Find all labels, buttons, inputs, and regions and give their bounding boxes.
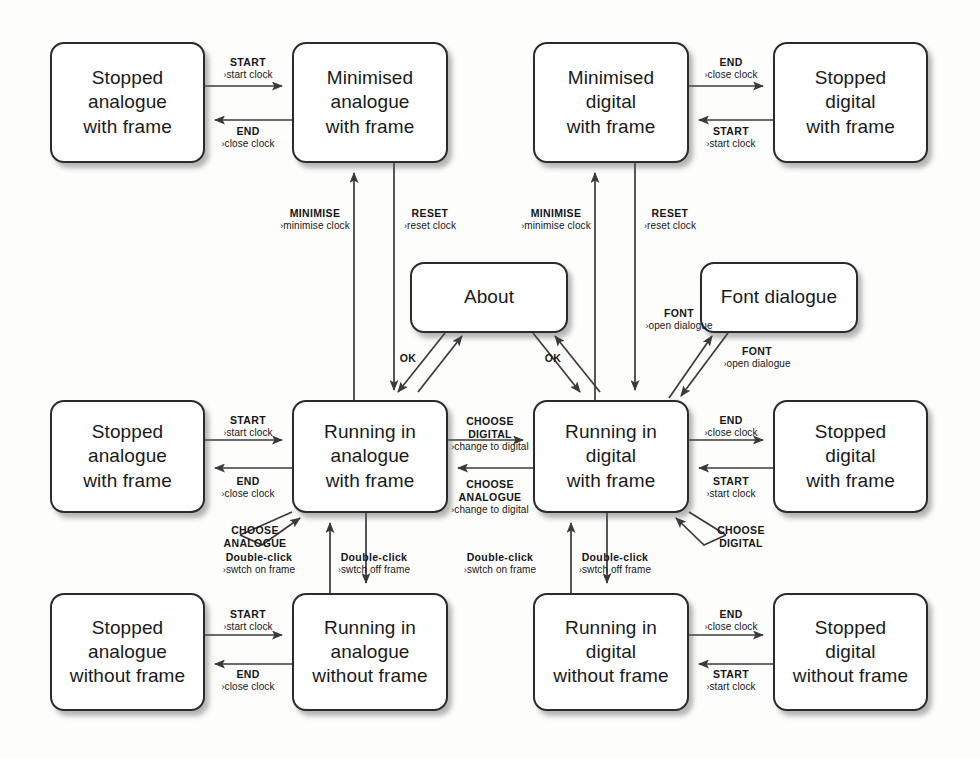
state-label: Stopped analogue with frame (77, 66, 178, 139)
transition-action: change to digital (435, 504, 545, 517)
transition-event: END (193, 475, 303, 488)
transition-label-t8: RESETreset clock (615, 207, 725, 233)
transition-action: swtch off frame (319, 564, 429, 577)
state-stopped-digital-with-frame-top[interactable]: Stopped digital with frame (773, 42, 928, 163)
transition-label-t26: ENDclose clock (193, 668, 303, 694)
state-stopped-digital-with-frame[interactable]: Stopped digital with frame (773, 400, 928, 513)
transition-label-t19: CHOOSE ANALOGUE (200, 524, 310, 550)
transition-action: close clock (193, 138, 303, 151)
transition-action: close clock (676, 621, 786, 634)
transition-label-t14: ENDclose clock (193, 475, 303, 501)
state-label: Running in digital with frame (559, 420, 663, 493)
transition-event: START (193, 414, 303, 427)
transition-event: END (676, 608, 786, 621)
transition-event: CHOOSE DIGITAL (435, 415, 545, 441)
transition-event: Double-click (445, 551, 555, 564)
state-stopped-analogue-with-frame-2[interactable]: Stopped analogue with frame (50, 400, 205, 513)
transition-event: START (676, 475, 786, 488)
transition-action: start clock (676, 138, 786, 151)
state-label: Running in analogue with frame (318, 420, 422, 493)
transition-action: close clock (193, 488, 303, 501)
transition-label-t2: ENDclose clock (193, 125, 303, 151)
transition-label-t12: OK (498, 352, 608, 365)
transition-event: CHOOSE DIGITAL (686, 524, 796, 550)
transition-event: Double-click (319, 551, 429, 564)
transition-action: reset clock (375, 220, 485, 233)
state-label: Minimised digital with frame (561, 66, 662, 139)
transition-event: OK (353, 352, 463, 365)
transition-label-t24: Double-clickswtch off frame (560, 551, 670, 577)
transition-event: START (676, 125, 786, 138)
transition-label-t11: OK (353, 352, 463, 365)
transition-label-t10: FONTopen dialogue (702, 345, 812, 371)
state-stopped-analogue-with-frame[interactable]: Stopped analogue with frame (50, 42, 205, 163)
transition-label-t3: ENDclose clock (676, 56, 786, 82)
transition-event: Double-click (560, 551, 670, 564)
transition-event: MINIMISE (260, 207, 370, 220)
transition-event: END (193, 668, 303, 681)
transition-event: END (676, 414, 786, 427)
state-running-digital-with-frame[interactable]: Running in digital with frame (533, 400, 689, 513)
transition-label-t21: Double-clickswtch on frame (204, 551, 314, 577)
transition-action: change to digital (435, 441, 545, 454)
transition-event: END (193, 125, 303, 138)
transition-label-t15: CHOOSE DIGITALchange to digital (435, 415, 545, 454)
transition-event: Double-click (204, 551, 314, 564)
state-running-analogue-with-frame[interactable]: Running in analogue with frame (292, 400, 448, 513)
transition-label-t18: STARTstart clock (676, 475, 786, 501)
state-about[interactable]: About (410, 262, 568, 333)
transition-event: CHOOSE ANALOGUE (200, 524, 310, 550)
transition-event: RESET (615, 207, 725, 220)
state-minimised-digital-with-frame[interactable]: Minimised digital with frame (533, 42, 689, 163)
state-stopped-digital-without-frame[interactable]: Stopped digital without frame (773, 593, 928, 711)
transition-label-t22: Double-clickswtch off frame (319, 551, 429, 577)
transition-label-t17: ENDclose clock (676, 414, 786, 440)
transition-event: START (193, 56, 303, 69)
transition-label-t28: STARTstart clock (676, 668, 786, 694)
transition-event: START (676, 668, 786, 681)
transition-event: RESET (375, 207, 485, 220)
transition-label-t13: STARTstart clock (193, 414, 303, 440)
transition-action: minimise clock (260, 220, 370, 233)
transition-action: close clock (676, 69, 786, 82)
transition-action: start clock (676, 681, 786, 694)
transition-event: MINIMISE (501, 207, 611, 220)
transition-label-t6: RESETreset clock (375, 207, 485, 233)
transition-action: reset clock (615, 220, 725, 233)
state-label: Running in analogue without frame (306, 616, 433, 689)
state-label: Stopped analogue with frame (77, 420, 178, 493)
transition-action: open dialogue (702, 358, 812, 371)
transition-action: start clock (193, 621, 303, 634)
transition-action: start clock (193, 427, 303, 440)
state-label: Stopped digital with frame (800, 66, 901, 139)
state-minimised-analogue-with-frame[interactable]: Minimised analogue with frame (292, 42, 448, 163)
state-label: Minimised analogue with frame (320, 66, 421, 139)
transition-label-t16: CHOOSE ANALOGUEchange to digital (435, 478, 545, 517)
transition-action: swtch on frame (204, 564, 314, 577)
state-diagram-canvas: Stopped analogue with frameMinimised ana… (0, 0, 980, 759)
transition-action: start clock (676, 488, 786, 501)
transition-label-t27: ENDclose clock (676, 608, 786, 634)
state-label: Stopped analogue without frame (64, 616, 191, 689)
transition-action: close clock (676, 427, 786, 440)
state-label: Running in digital without frame (547, 616, 674, 689)
state-running-analogue-without-frame[interactable]: Running in analogue without frame (292, 593, 448, 711)
transition-event: FONT (702, 345, 812, 358)
state-running-digital-without-frame[interactable]: Running in digital without frame (533, 593, 689, 711)
transition-label-t25: STARTstart clock (193, 608, 303, 634)
state-label: Stopped digital with frame (800, 420, 901, 493)
transition-label-t20: CHOOSE DIGITAL (686, 524, 796, 550)
transition-action: start clock (193, 69, 303, 82)
transition-label-t7: MINIMISEminimise clock (501, 207, 611, 233)
state-stopped-analogue-without-frame[interactable]: Stopped analogue without frame (50, 593, 205, 711)
transition-label-t9: FONTopen dialogue (624, 307, 734, 333)
state-label: Stopped digital without frame (787, 616, 914, 689)
transition-action: minimise clock (501, 220, 611, 233)
transition-event: FONT (624, 307, 734, 320)
transition-action: close clock (193, 681, 303, 694)
transition-label-t1: STARTstart clock (193, 56, 303, 82)
state-label: Font dialogue (715, 285, 843, 309)
transition-action: swtch off frame (560, 564, 670, 577)
state-label: About (458, 285, 520, 309)
transition-action: open dialogue (624, 320, 734, 333)
